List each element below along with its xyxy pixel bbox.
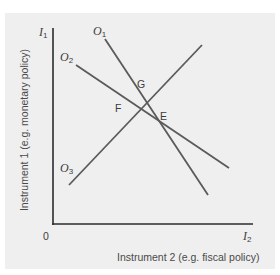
y-axis-symbol: I1 [39, 26, 47, 40]
point-g-label: G [137, 79, 145, 90]
line-o2-label: O2 [60, 51, 73, 65]
x-axis-symbol: I2 [243, 230, 251, 244]
point-e-label: E [160, 111, 167, 122]
line-o1-label: O1 [93, 25, 106, 39]
line-o3-label: O3 [60, 162, 73, 176]
x-axis-title: Instrument 2 (e.g. fiscal policy) [117, 251, 259, 263]
diagram-canvas [0, 0, 280, 275]
line-o1 [105, 39, 208, 195]
line-o3 [69, 45, 202, 185]
y-axis-title: Instrument 1 (e.g. monetary policy) [18, 49, 30, 211]
origin-label: 0 [43, 231, 49, 242]
point-f-label: F [115, 103, 121, 114]
